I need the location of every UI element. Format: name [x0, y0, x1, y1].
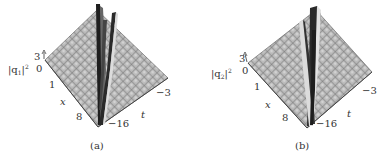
z-axis-label-a: |q1|2	[8, 62, 29, 78]
z-label-base: |q	[211, 68, 221, 79]
panel-a: |q1|2 3 0 1 x 8 −3 t −16 (a)	[0, 0, 191, 161]
x-tick-1-b: 1	[254, 82, 260, 92]
z-tick-top-a: 3	[34, 52, 40, 62]
z-tick-top-b: 3	[239, 54, 245, 64]
surface-plot-a	[0, 0, 191, 161]
t-axis-label-b: t	[347, 109, 351, 119]
caption-a: (a)	[90, 140, 104, 151]
z-tick-bottom-b: 0	[242, 66, 248, 76]
x-axis-label-b: x	[265, 100, 271, 110]
x-tick-8-b: 8	[282, 113, 288, 123]
t-tick-minus16-a: −16	[108, 119, 129, 129]
caption-b: (b)	[295, 140, 309, 151]
t-axis-label-a: t	[141, 110, 145, 120]
z-label-sup: 2	[228, 67, 232, 74]
z-label-base: |q	[8, 64, 18, 75]
panel-b: |q2|2 3 0 1 x 8 −3 t −16 (b)	[191, 0, 382, 161]
x-tick-8-a: 8	[76, 112, 82, 122]
t-tick-minus16-b: −16	[316, 119, 337, 129]
x-tick-1-a: 1	[49, 80, 55, 90]
t-tick-minus3-a: −3	[156, 88, 171, 98]
z-axis-label-b: |q2|2	[211, 66, 232, 82]
t-tick-minus3-b: −3	[362, 86, 377, 96]
x-axis-label-a: x	[60, 97, 66, 107]
z-label-sup: 2	[25, 63, 29, 70]
z-tick-bottom-a: 0	[36, 64, 42, 74]
